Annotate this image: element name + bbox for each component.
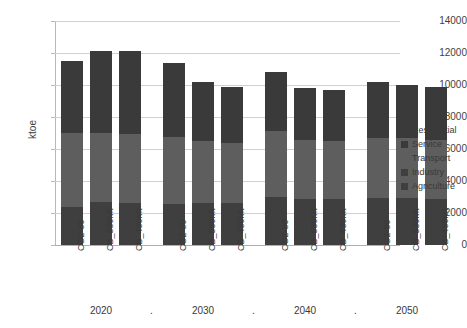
bar-segment-service[interactable] bbox=[163, 99, 185, 137]
legend-label: Service bbox=[412, 140, 442, 149]
legend-swatch-icon bbox=[401, 141, 408, 148]
bar[interactable] bbox=[61, 61, 83, 245]
gridline bbox=[55, 21, 400, 22]
x-axis-category-label: CB_530Mt bbox=[309, 208, 319, 251]
bar-segment-transport[interactable] bbox=[192, 141, 214, 203]
legend-label: Transport bbox=[412, 154, 450, 163]
x-axis-group-label: 2050 bbox=[364, 305, 450, 316]
x-axis-category-label: CB_430Mt bbox=[440, 208, 450, 251]
x-axis-group-separator: . bbox=[354, 305, 357, 316]
x-axis-category-label: CB_430Mt bbox=[236, 208, 246, 251]
bar-segment-service[interactable] bbox=[367, 110, 389, 138]
x-axis-group-label: 2030 bbox=[160, 305, 246, 316]
bar-segment-residential[interactable] bbox=[90, 51, 112, 93]
legend-swatch-icon bbox=[401, 169, 408, 176]
bar-segment-transport[interactable] bbox=[119, 134, 141, 203]
bar-segment-residential[interactable] bbox=[119, 51, 141, 92]
x-axis-category-label: CB_530Mt bbox=[207, 208, 217, 251]
legend-swatch-icon bbox=[401, 155, 408, 162]
legend-label: Agriculture bbox=[412, 182, 455, 191]
bar-segment-service[interactable] bbox=[61, 97, 83, 133]
bar-segment-service[interactable] bbox=[221, 116, 243, 143]
y-axis-tick-label: 12000 bbox=[421, 48, 467, 58]
bar-segment-transport[interactable] bbox=[90, 133, 112, 202]
bar-segment-service[interactable] bbox=[323, 115, 345, 141]
bar-segment-transport[interactable] bbox=[367, 138, 389, 198]
bar-segment-residential[interactable] bbox=[221, 87, 243, 116]
legend-label: Industry bbox=[412, 168, 444, 177]
x-axis-group-separator: . bbox=[150, 305, 153, 316]
legend-swatch-icon bbox=[401, 183, 408, 190]
bar-segment-residential[interactable] bbox=[61, 61, 83, 97]
x-axis-category-label: CB_530Mt bbox=[105, 208, 115, 251]
bar-segment-residential[interactable] bbox=[396, 85, 418, 112]
bar-chart: ktoe 14000120001000080006000400020000 CO… bbox=[0, 0, 467, 328]
bar-segment-transport[interactable] bbox=[163, 137, 185, 204]
legend-swatch-icon bbox=[401, 127, 408, 134]
x-axis-category-label: CO2-80 bbox=[178, 219, 188, 251]
bar-segment-residential[interactable] bbox=[323, 90, 345, 116]
x-axis-category-label: CO2-80 bbox=[76, 219, 86, 251]
legend-item[interactable]: Transport bbox=[401, 152, 467, 165]
bar-segment-residential[interactable] bbox=[294, 88, 316, 114]
x-axis-category-label: CB_530Mt bbox=[411, 208, 421, 251]
legend-item[interactable]: Agriculture bbox=[401, 180, 467, 193]
x-axis-category-label: CO2-80 bbox=[382, 219, 392, 251]
bar-segment-service[interactable] bbox=[90, 93, 112, 133]
bar-segment-residential[interactable] bbox=[367, 82, 389, 110]
x-axis-category-label: CB_430Mt bbox=[338, 208, 348, 251]
x-axis-group-label: 2020 bbox=[58, 305, 144, 316]
legend-item[interactable]: Residential bbox=[401, 124, 467, 137]
bar-segment-service[interactable] bbox=[119, 93, 141, 134]
legend: ResidentialServiceTransportIndustryAgric… bbox=[401, 124, 467, 194]
x-axis-category-label: CO2-80 bbox=[280, 219, 290, 251]
legend-item[interactable]: Service bbox=[401, 138, 467, 151]
bar-segment-transport[interactable] bbox=[323, 141, 345, 199]
x-axis-group-separator: . bbox=[252, 305, 255, 316]
bar-segment-service[interactable] bbox=[265, 102, 287, 131]
bar-segment-service[interactable] bbox=[192, 112, 214, 141]
bar-segment-residential[interactable] bbox=[265, 72, 287, 102]
y-axis-tick-label: 14000 bbox=[421, 16, 467, 26]
bar-segment-transport[interactable] bbox=[265, 131, 287, 197]
x-axis-group-label: 2040 bbox=[262, 305, 348, 316]
bar-segment-residential[interactable] bbox=[192, 82, 214, 112]
bar-segment-residential[interactable] bbox=[425, 87, 447, 114]
bar-segment-service[interactable] bbox=[294, 114, 316, 140]
legend-item[interactable]: Industry bbox=[401, 166, 467, 179]
bar[interactable] bbox=[163, 63, 185, 245]
bar-segment-transport[interactable] bbox=[221, 143, 243, 203]
y-axis-title: ktoe bbox=[27, 100, 38, 160]
bar-segment-transport[interactable] bbox=[61, 133, 83, 207]
x-axis-category-label: CB_430Mt bbox=[134, 208, 144, 251]
legend-label: Residential bbox=[412, 126, 457, 135]
bar-segment-residential[interactable] bbox=[163, 63, 185, 100]
bar-segment-transport[interactable] bbox=[294, 140, 316, 199]
